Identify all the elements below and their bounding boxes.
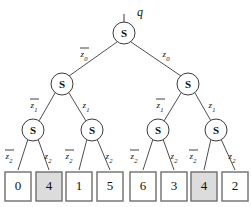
leaf-node-4[interactable]: 6	[130, 172, 156, 201]
node-level1-right[interactable]: S	[177, 73, 199, 95]
edge-l1left-left	[39, 93, 55, 121]
edge-label-z2-4-text: z2	[130, 151, 139, 164]
edge-root-left	[69, 42, 117, 76]
edge-label-z1-r-left-text: z1	[156, 100, 164, 113]
edge-label-z2-2-text: z2	[65, 151, 74, 164]
node-level1-right-label: S	[185, 78, 191, 90]
edge-label-sub: 1	[160, 106, 163, 113]
leaf-node-7[interactable]: 2	[222, 172, 248, 201]
edge-l2n2-left	[143, 139, 153, 170]
leaf-node-5[interactable]: 3	[161, 172, 187, 201]
leaf-node-6[interactable]: 4	[191, 172, 217, 201]
node-level1-left-label: S	[59, 78, 65, 90]
edge-label-sub: 2	[48, 157, 52, 164]
leaf-node-3[interactable]: 5	[97, 172, 123, 201]
edge-label-sub: 2	[232, 157, 236, 164]
edge-label-z2-1-text: z2	[44, 151, 53, 164]
edge-l2n1-left	[79, 139, 87, 170]
edge-l1right-left	[164, 93, 181, 121]
edge-label-sub: 0	[166, 55, 170, 62]
edge-root-right	[131, 42, 181, 76]
edge-label-z0: z0	[162, 49, 171, 62]
leaf-node-6-value: 4	[201, 178, 208, 193]
leaf-node-0-value: 0	[15, 178, 22, 193]
edge-label-z2-3: z2	[105, 151, 114, 164]
edge-label-sub: 1	[86, 106, 89, 113]
leaf-node-1[interactable]: 4	[36, 172, 62, 201]
leaf-node-7-value: 2	[232, 178, 239, 193]
edge-label-z1-bar-right: z1	[156, 99, 165, 113]
edge-label-sub: 0	[84, 55, 88, 62]
edge-label-z1-left: z1	[82, 100, 90, 113]
edge-label-sub: 1	[34, 106, 37, 113]
node-level2-0[interactable]: S	[22, 119, 44, 141]
leaf-node-4-value: 6	[140, 178, 147, 193]
node-level1-left[interactable]: S	[51, 73, 73, 95]
edge-label-z2-1: z2	[44, 151, 53, 164]
edge-label-sub: 2	[109, 157, 113, 164]
edge-label-sub: 2	[9, 157, 13, 164]
leaf-node-5-value: 3	[171, 178, 178, 193]
edge-label-z2-bar-2: z2	[65, 150, 74, 164]
edge-label-sub: 1	[212, 106, 215, 113]
edge-label-z1-l-left-text: z1	[30, 100, 38, 113]
edge-label-z1-l-right-text: z1	[82, 100, 90, 113]
leaf-node-0[interactable]: 0	[5, 172, 31, 201]
edge-label-z2-7: z2	[228, 151, 237, 164]
node-level2-1-label: S	[89, 124, 95, 136]
decision-tree-diagram: q S S S S	[0, 0, 251, 207]
edge-label-sub: 2	[134, 157, 138, 164]
node-level2-0-label: S	[30, 124, 36, 136]
node-root[interactable]: S	[113, 22, 135, 44]
edge-label-z2-6-text: z2	[189, 151, 198, 164]
edge-label-z1-bar-left: z1	[30, 99, 39, 113]
root-input-label: q	[137, 5, 143, 19]
edge-label-z2-bar-6: z2	[189, 150, 198, 164]
leaf-node-2[interactable]: 1	[66, 172, 92, 201]
tree-canvas: q S S S S	[0, 0, 251, 207]
leaf-node-2-value: 1	[76, 178, 83, 193]
edge-label-z2-7-text: z2	[228, 151, 237, 164]
leaf-node-1-value: 4	[46, 178, 53, 193]
edge-label-sub: 2	[69, 157, 73, 164]
edge-l2n0-left	[18, 139, 28, 170]
node-level2-2[interactable]: S	[147, 119, 169, 141]
edge-label-sub: 2	[193, 157, 197, 164]
node-level2-2-label: S	[155, 124, 161, 136]
node-level2-3[interactable]: S	[205, 119, 227, 141]
edge-label-sub: 2	[174, 157, 178, 164]
edge-label-z1-r-right-text: z1	[208, 100, 216, 113]
edge-label-z2-bar-4: z2	[130, 150, 139, 164]
node-level2-3-label: S	[213, 124, 219, 136]
edge-label-z0-right-text: z0	[162, 49, 171, 62]
leaf-node-3-value: 5	[107, 178, 114, 193]
edge-label-z2-3-text: z2	[105, 151, 114, 164]
node-level2-1[interactable]: S	[81, 119, 103, 141]
edge-l2n3-left	[204, 139, 211, 170]
edge-label-z0-left-text: z0	[80, 49, 89, 62]
edge-label-z0-bar: z0	[80, 48, 89, 62]
edge-label-z1-right: z1	[208, 100, 216, 113]
edge-label-z2-0-text: z2	[5, 151, 14, 164]
edge-label-z2-bar-0: z2	[5, 150, 14, 164]
node-root-label: S	[121, 27, 127, 39]
